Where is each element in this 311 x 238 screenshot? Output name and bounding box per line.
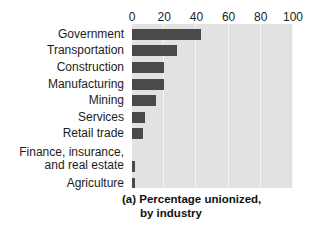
- bar: [132, 95, 156, 106]
- bar-row: [132, 76, 293, 93]
- category-label: Government: [58, 28, 124, 41]
- category-label-row: Mining: [0, 92, 128, 109]
- caption-line-1: (a) Percentage unionized,: [122, 192, 311, 206]
- category-label-row: Finance, insurance, and real estate: [0, 142, 128, 175]
- bar: [132, 161, 135, 172]
- x-tick-label-40: 40: [190, 10, 203, 24]
- bar-row: [132, 59, 293, 76]
- bar-row: [132, 126, 293, 143]
- x-tick-label-20: 20: [158, 10, 171, 24]
- bar-row: [132, 92, 293, 109]
- x-tick-label-80: 80: [254, 10, 267, 24]
- bar-series: [132, 26, 293, 188]
- category-label-row: Retail trade: [0, 126, 128, 143]
- chart-figure: 020406080100 GovernmentTransportationCon…: [0, 0, 311, 238]
- bar: [132, 112, 145, 123]
- x-axis-tick-labels: 020406080100: [0, 10, 311, 24]
- category-label-row: Transportation: [0, 43, 128, 60]
- category-label-row: Services: [0, 109, 128, 126]
- category-label-row: Agriculture: [0, 175, 128, 192]
- category-label: Retail trade: [63, 127, 124, 140]
- category-label: Construction: [57, 61, 124, 74]
- x-tick-label-0: 0: [129, 10, 136, 24]
- category-label: Services: [78, 111, 124, 124]
- bar-row: [132, 142, 293, 175]
- category-label-row: Construction: [0, 59, 128, 76]
- bar-row: [132, 43, 293, 60]
- plot-area: [132, 24, 293, 188]
- category-label-row: Manufacturing: [0, 76, 128, 93]
- category-label: Manufacturing: [48, 78, 124, 91]
- category-label-row: Government: [0, 26, 128, 43]
- x-tick-label-100: 100: [283, 10, 303, 24]
- category-label: Transportation: [47, 44, 124, 57]
- bar-row: [132, 175, 293, 188]
- bar-row: [132, 26, 293, 43]
- category-label: Agriculture: [67, 177, 124, 190]
- x-tick-label-60: 60: [222, 10, 235, 24]
- bar: [132, 29, 201, 40]
- category-label: Finance, insurance, and real estate: [19, 146, 124, 172]
- chart-caption: (a) Percentage unionized, by industry: [122, 192, 311, 220]
- caption-line-2: by industry: [122, 206, 311, 220]
- bar: [132, 128, 143, 139]
- y-axis-category-labels: GovernmentTransportationConstructionManu…: [0, 26, 128, 192]
- bar: [132, 45, 177, 56]
- bar: [132, 178, 135, 188]
- category-label: Mining: [89, 94, 124, 107]
- bar-row: [132, 109, 293, 126]
- bar: [132, 62, 164, 73]
- bar: [132, 79, 164, 90]
